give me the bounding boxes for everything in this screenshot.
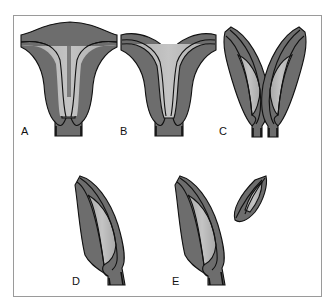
panel-d-shape xyxy=(75,176,125,285)
panel-c-right-lobe xyxy=(262,27,306,137)
panel-e-detached-piece xyxy=(234,176,266,222)
panel-e-shape xyxy=(175,176,225,285)
panel-b-shape xyxy=(121,34,216,136)
panel-label-e: E xyxy=(172,275,179,287)
panel-label-d: D xyxy=(72,275,80,287)
panel-label-c: C xyxy=(219,125,227,137)
panel-label-b: B xyxy=(120,125,127,137)
panel-a-shape xyxy=(21,22,117,136)
panel-c-left-lobe xyxy=(224,27,268,137)
diagram-canvas xyxy=(0,0,332,308)
panel-label-a: A xyxy=(21,125,28,137)
